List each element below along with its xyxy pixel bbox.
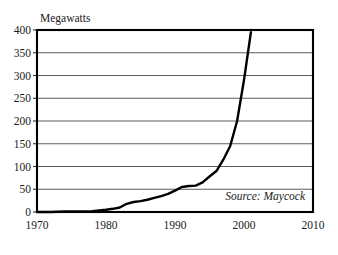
y-tick-label: 400 [14,24,32,36]
x-tick-label: 2010 [302,219,325,231]
y-tick-label: 0 [25,206,31,218]
x-tick-label: 1990 [164,219,187,231]
y-tick-label: 50 [20,183,32,195]
y-tick-label: 200 [14,115,32,127]
chart-title: Megawatts [40,12,91,25]
y-tick-label: 300 [14,70,32,82]
megawatts-line-chart: 050100150200250300350400 197019801990200… [0,0,338,255]
x-tick-label: 2000 [233,219,256,231]
y-tick-label: 350 [14,47,32,59]
y-tick-label: 100 [14,161,32,173]
x-tick-label: 1980 [95,219,118,231]
chart-page: 050100150200250300350400 197019801990200… [0,0,338,255]
gridlines [37,53,313,190]
x-axis-tick-labels: 19701980199020002010 [26,219,325,231]
y-tick-label: 250 [14,92,32,104]
series-line-megawatts [37,32,251,212]
x-tick-label: 1970 [26,219,49,231]
y-tick-label: 150 [14,138,32,150]
source-annotation: Source: Maycock [225,190,306,203]
y-axis-tick-labels: 050100150200250300350400 [14,24,32,218]
